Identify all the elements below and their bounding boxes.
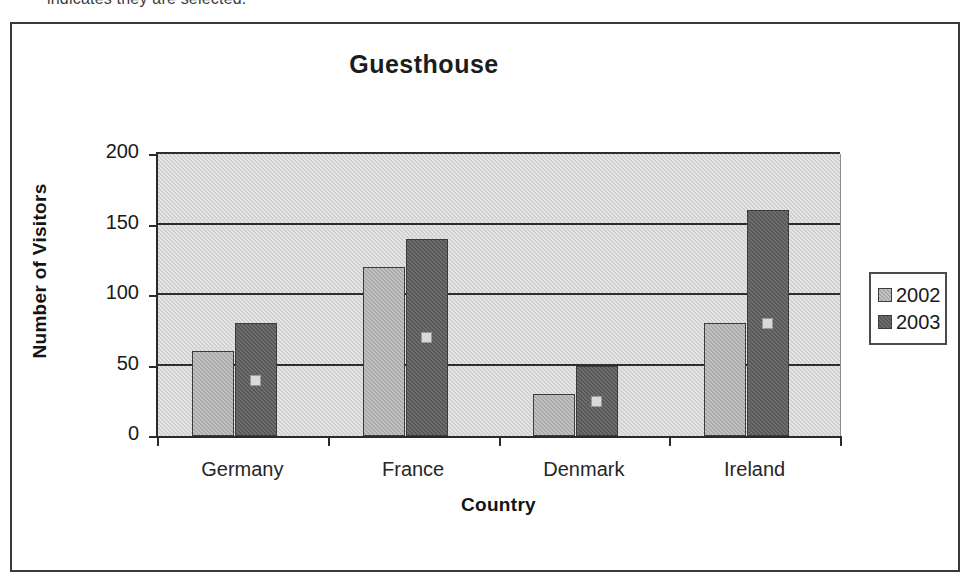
plot-area[interactable] [157,154,841,436]
y-axis-tick-label-0: 0 [69,422,139,445]
gridline-150 [157,223,840,225]
selection-handle-france[interactable] [421,332,432,343]
y-axis-tick-200 [149,154,157,156]
y-axis-tick-50 [149,366,157,368]
x-axis-tick-4 [840,436,842,446]
chart-frame[interactable]: Guesthouse Number of Visitors 0501001502… [10,22,960,572]
x-axis-tick-2 [499,436,501,446]
legend[interactable]: 2002 2003 [869,272,947,345]
y-axis-title: Number of Visitors [29,151,51,391]
clipped-caption-text: indicates they are selected. [47,0,247,8]
y-axis-tick-150 [149,225,157,227]
legend-swatch-icon-2003 [878,315,892,329]
x-axis-label-germany: Germany [157,458,327,481]
selection-handle-denmark[interactable] [591,396,602,407]
y-axis-tick-100 [149,295,157,297]
selection-handle-ireland[interactable] [762,318,773,329]
y-axis-tick-0 [149,436,157,438]
x-axis-tick-3 [669,436,671,446]
x-axis-title: Country [157,494,840,516]
bar-germany-2002[interactable] [192,351,234,436]
selection-handle-germany[interactable] [250,375,261,386]
legend-swatch-icon-2002 [878,288,892,302]
legend-label-2002: 2002 [896,285,941,305]
x-axis-label-france: France [328,458,498,481]
legend-entry-2003[interactable]: 2003 [878,308,939,335]
legend-entry-2002[interactable]: 2002 [878,281,939,308]
y-axis-tick-label-200: 200 [69,140,139,163]
chart-title: Guesthouse [12,50,836,79]
bar-ireland-2002[interactable] [704,323,746,436]
x-axis-tick-1 [328,436,330,446]
x-axis-tick-0 [157,436,159,446]
x-axis-label-denmark: Denmark [499,458,669,481]
bar-france-2002[interactable] [363,267,405,436]
x-axis-label-ireland: Ireland [670,458,840,481]
gridline-200 [157,152,840,154]
bar-denmark-2002[interactable] [533,394,575,436]
legend-label-2003: 2003 [896,312,941,332]
y-axis-tick-label-50: 50 [69,352,139,375]
y-axis-tick-label-100: 100 [69,281,139,304]
clipped-caption-strip: indicates they are selected. [0,0,965,16]
gridline-100 [157,293,840,295]
y-axis-tick-label-150: 150 [69,211,139,234]
